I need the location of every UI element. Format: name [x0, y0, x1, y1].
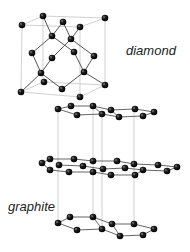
carbon-atom: [18, 89, 25, 96]
carbon-atom: [56, 162, 63, 169]
carbon-atom: [122, 165, 129, 172]
carbon-atom: [164, 168, 171, 175]
carbon-atom: [116, 114, 123, 121]
carbon-atom: [68, 36, 75, 43]
carbon-atom: [60, 19, 67, 26]
carbon-atom: [71, 156, 78, 163]
bond-line: [32, 36, 52, 53]
frame-line: [22, 25, 80, 27]
carbon-atom: [174, 164, 181, 171]
carbon-atom: [47, 167, 54, 174]
carbon-atom: [47, 156, 54, 163]
carbon-atom: [91, 53, 98, 60]
carbon-atom: [102, 15, 109, 22]
bond-line: [59, 165, 83, 166]
carbon-atom: [41, 79, 48, 86]
carbon-atom: [99, 111, 106, 118]
carbon-atom: [100, 166, 107, 173]
frame-line: [43, 82, 105, 85]
bond-line: [62, 72, 84, 89]
carbon-atom: [39, 160, 46, 167]
frame-line: [21, 92, 80, 97]
graphite-bonds: [42, 106, 177, 236]
carbon-atom: [40, 13, 47, 20]
frame-line: [22, 16, 43, 25]
bond-line: [143, 170, 167, 171]
carbon-atom: [99, 226, 106, 233]
carbon-atom: [68, 103, 75, 110]
bond-line: [119, 116, 143, 117]
carbon-atom: [49, 33, 56, 40]
carbon-atom: [117, 233, 124, 240]
carbon-atom: [108, 172, 115, 179]
frame-line: [80, 85, 105, 97]
carbon-atom: [151, 226, 158, 233]
bond-line: [52, 39, 71, 58]
carbon-atom: [77, 24, 84, 31]
frame-line: [43, 16, 105, 18]
frame-line: [21, 82, 43, 92]
carbon-atom: [38, 70, 45, 77]
carbon-atom: [140, 232, 147, 239]
carbon-atom: [55, 220, 62, 227]
bond-line: [77, 229, 102, 230]
carbon-atom: [59, 86, 66, 93]
bond-line: [77, 114, 102, 115]
carbon-atom: [66, 169, 73, 176]
carbon-atom: [90, 169, 97, 176]
carbon-atom: [80, 163, 87, 170]
carbon-atom: [81, 69, 88, 76]
carbon-atom: [90, 103, 97, 110]
bond-line: [134, 164, 158, 165]
carbon-atom: [132, 106, 139, 113]
carbon-atom: [77, 94, 84, 101]
carbon-atom: [140, 167, 147, 174]
carbon-atom: [74, 227, 81, 234]
bond-line: [21, 73, 41, 92]
carbon-atom: [151, 109, 158, 116]
bond-line: [84, 72, 105, 85]
carbon-atom: [29, 50, 36, 57]
carbon-atom: [102, 82, 109, 89]
carbon-atom: [67, 214, 74, 221]
carbon-atom: [131, 161, 138, 168]
bond-line: [103, 168, 125, 169]
carbon-atom: [55, 106, 62, 113]
carbon-atom: [140, 113, 147, 120]
diamond-label: diamond: [126, 43, 176, 58]
carbon-atom: [49, 55, 56, 62]
carbon-atom: [90, 158, 97, 165]
carbon-atom: [109, 221, 116, 228]
carbon-atom: [155, 162, 162, 169]
frame-line: [80, 18, 105, 27]
carbon-atom: [74, 112, 81, 119]
bond-line: [74, 52, 84, 72]
carbon-atom: [131, 221, 138, 228]
carbon-atom: [71, 49, 78, 56]
carbon-atom: [114, 158, 121, 165]
carbon-allotropes-diagram: [0, 0, 190, 252]
carbon-atom: [90, 214, 97, 221]
bond-line: [111, 109, 135, 110]
carbon-atom: [132, 172, 139, 179]
carbon-atom: [108, 107, 115, 114]
bond-line: [120, 235, 143, 236]
carbon-atom: [19, 22, 26, 29]
frame-line: [21, 25, 22, 92]
graphite-label: graphite: [8, 199, 55, 214]
